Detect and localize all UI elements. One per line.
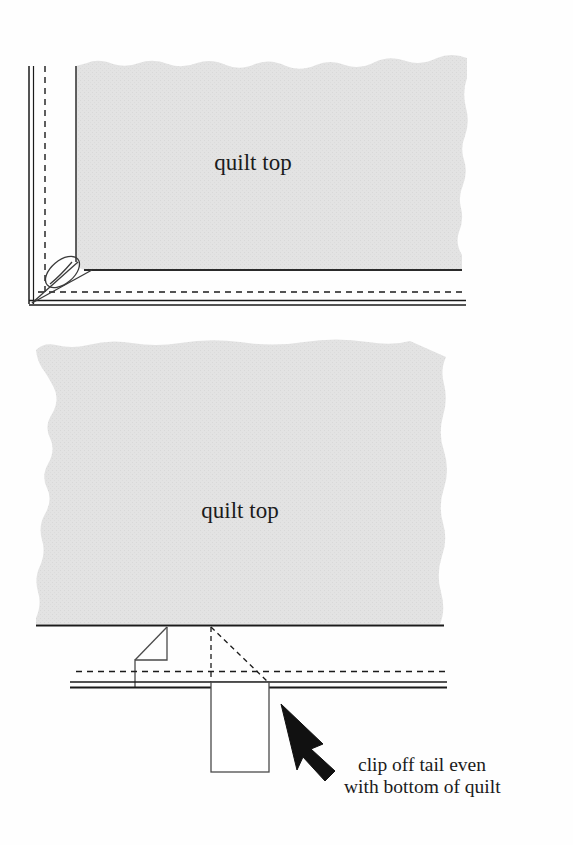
quilt-top-label-top: quilt top <box>214 150 291 175</box>
binding-fold-flap <box>135 627 167 688</box>
binding-double-line-bottom <box>29 301 466 306</box>
callout-line-1: clip off tail even <box>358 754 486 775</box>
mitered-corner-figure: quilt top <box>0 0 573 330</box>
binding-double-line-left <box>29 66 34 304</box>
binding-tail-rectangle <box>211 682 269 772</box>
quilt-top-fabric <box>36 340 447 625</box>
clip-tail-figure: quilt top clip off tail even with bottom… <box>0 330 573 845</box>
diagram-page: quilt top <box>0 0 573 845</box>
quilt-top-label-bottom: quilt top <box>201 498 278 523</box>
callout-line-2: with bottom of quilt <box>344 776 501 797</box>
binding-tail-fold-guide <box>211 627 268 682</box>
callout-arrow <box>281 704 335 781</box>
